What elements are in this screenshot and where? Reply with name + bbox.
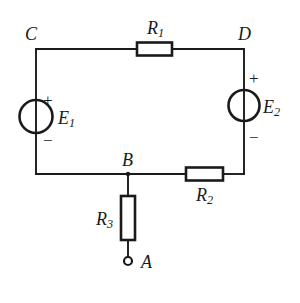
node-label-a: A: [141, 253, 152, 271]
resistor-label-r2-base: R: [196, 185, 207, 205]
resistor-label-r3-subscript: 3: [107, 217, 113, 231]
polarity-minus-e2: −: [249, 129, 259, 146]
resistor-label-r3-base: R: [96, 209, 107, 229]
node-label-d: D: [238, 25, 251, 43]
polarity-minus-e1: −: [43, 132, 53, 149]
resistor-label-r1: R1: [147, 19, 164, 40]
resistor-label-r2: R2: [196, 186, 213, 207]
resistor-label-r1-subscript: 1: [158, 26, 164, 40]
source-label-e2: E2: [263, 98, 280, 119]
resistor-r2-body: [186, 168, 223, 181]
terminal-a-circle: [124, 257, 132, 265]
source-label-e1-base: E: [58, 108, 69, 128]
resistor-label-r1-base: R: [147, 18, 158, 38]
source-label-e1: E1: [58, 109, 75, 130]
resistor-label-r3: R3: [96, 210, 113, 231]
resistor-r1-body: [137, 43, 172, 56]
source-label-e1-subscript: 1: [69, 116, 75, 130]
resistor-r3-body: [121, 196, 135, 240]
junction-dot-b: [126, 172, 130, 176]
resistor-label-r2-subscript: 2: [207, 193, 213, 207]
node-label-c: C: [25, 25, 37, 43]
circuit-diagram: C D B A R1 R2 R3 E1 E2 + − + −: [0, 0, 300, 303]
source-label-e2-base: E: [263, 97, 274, 117]
source-label-e2-subscript: 2: [274, 105, 280, 119]
polarity-plus-e2: +: [249, 70, 259, 87]
node-label-b: B: [122, 151, 133, 169]
polarity-plus-e1: +: [43, 92, 53, 109]
